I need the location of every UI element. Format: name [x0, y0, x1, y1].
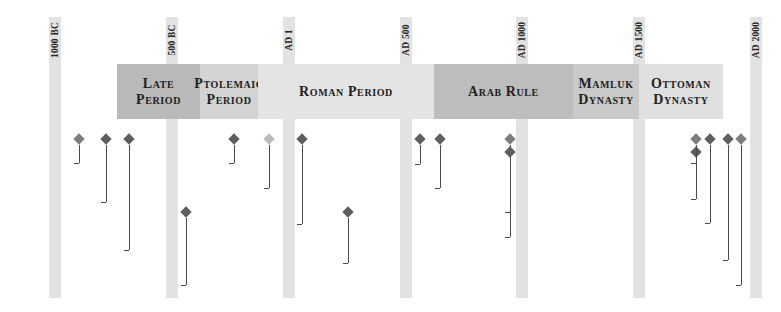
period-name: Late — [136, 76, 181, 92]
year-label-text: 1000 BC — [50, 22, 60, 58]
leader-tick — [705, 223, 710, 224]
year-marker-label: AD 500 — [400, 17, 412, 63]
leader-line — [269, 145, 270, 188]
period-name: Mamluk — [578, 76, 633, 92]
period-name: Ptolemaic — [194, 76, 263, 92]
diamond-marker-icon — [228, 133, 239, 144]
period-name: Dynasty — [578, 92, 633, 108]
diamond-marker-icon — [73, 133, 84, 144]
year-label-text: AD 1500 — [634, 22, 644, 59]
year-label-text: AD 500 — [401, 24, 411, 56]
diamond-marker-icon — [704, 133, 715, 144]
diamond-marker-icon — [100, 133, 111, 144]
period-name: Period — [194, 92, 263, 108]
leader-tick — [343, 263, 348, 264]
diamond-marker-icon — [504, 146, 515, 157]
leader-tick — [297, 224, 302, 225]
leader-line — [510, 158, 511, 237]
period-band: Roman Period — [258, 64, 434, 119]
leader-tick — [415, 164, 420, 165]
year-label-text: AD 1000 — [517, 22, 527, 59]
year-marker-label: 1000 BC — [49, 17, 61, 63]
year-marker-label: AD 1 — [283, 17, 295, 63]
year-label-text: AD 1 — [284, 29, 294, 51]
leader-tick — [74, 163, 79, 164]
leader-line — [106, 145, 107, 202]
year-label-text: 500 BC — [167, 24, 177, 55]
leader-line — [186, 218, 187, 285]
year-marker-label: 500 BC — [166, 17, 178, 63]
leader-line — [129, 145, 130, 250]
leader-line — [348, 218, 349, 263]
leader-tick — [264, 188, 269, 189]
diamond-marker-icon — [296, 133, 307, 144]
year-marker-label: AD 1000 — [516, 17, 528, 63]
leader-line — [741, 145, 742, 285]
period-name: Roman Period — [299, 84, 393, 100]
leader-line — [696, 145, 697, 199]
leader-tick — [181, 285, 186, 286]
leader-tick — [691, 199, 696, 200]
diamond-marker-icon — [414, 133, 425, 144]
leader-tick — [124, 250, 129, 251]
period-band: OttomanDynasty — [639, 64, 723, 119]
leader-line — [440, 145, 441, 188]
period-name: Ottoman — [651, 76, 711, 92]
year-label-text: AD 2000 — [751, 22, 761, 59]
year-marker-label: AD 2000 — [750, 17, 762, 63]
leader-tick — [723, 260, 728, 261]
leader-tick — [101, 202, 106, 203]
period-band: MamlukDynasty — [573, 64, 639, 119]
leader-line — [234, 145, 235, 163]
period-name: Arab Rule — [468, 84, 539, 100]
leader-tick — [435, 188, 440, 189]
leader-line — [728, 145, 729, 260]
period-band: Arab Rule — [434, 64, 573, 119]
period-band: LatePeriod — [117, 64, 200, 119]
diamond-marker-icon — [735, 133, 746, 144]
period-name: Dynasty — [651, 92, 711, 108]
leader-line — [710, 145, 711, 223]
leader-line — [79, 145, 80, 163]
diamond-marker-icon — [263, 133, 274, 144]
diamond-marker-icon — [690, 133, 701, 144]
diamond-marker-icon — [722, 133, 733, 144]
timeline-diagram: 1000 BC500 BCAD 1AD 500AD 1000AD 1500AD … — [0, 0, 781, 312]
period-band: PtolemaicPeriod — [200, 64, 258, 119]
leader-line — [302, 145, 303, 224]
period-name: Period — [136, 92, 181, 108]
leader-line — [420, 145, 421, 164]
leader-tick — [736, 285, 741, 286]
diamond-marker-icon — [434, 133, 445, 144]
diamond-marker-icon — [123, 133, 134, 144]
leader-tick — [505, 237, 510, 238]
diamond-marker-icon — [504, 133, 515, 144]
year-marker-label: AD 1500 — [633, 17, 645, 63]
leader-tick — [229, 163, 234, 164]
diamond-marker-icon — [342, 206, 353, 217]
diamond-marker-icon — [180, 206, 191, 217]
